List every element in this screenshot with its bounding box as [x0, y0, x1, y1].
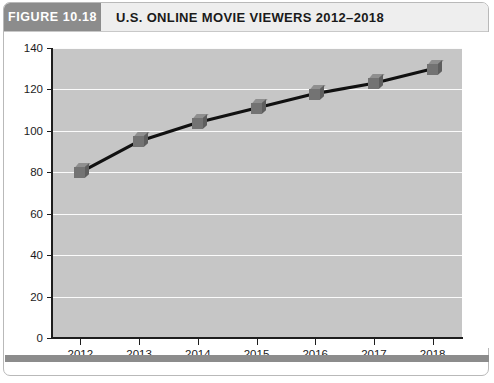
marker-cube-side [379, 75, 383, 89]
x-axis-tick-mark [433, 339, 434, 345]
data-point-marker [309, 85, 324, 100]
data-point-marker [74, 163, 89, 178]
y-axis-tick-label: 80 [1, 166, 43, 178]
marker-cube-face [133, 136, 144, 147]
x-axis-tick-mark [374, 339, 375, 345]
x-axis-tick-mark [139, 339, 140, 345]
y-axis-tick-label: 40 [1, 249, 43, 261]
y-axis-tick-label: 0 [1, 332, 43, 344]
figure-title: U.S. ONLINE MOVIE VIEWERS 2012–2018 [116, 3, 484, 31]
marker-cube-side [438, 60, 442, 74]
data-point-marker [427, 60, 442, 75]
marker-cube-face [427, 64, 438, 75]
y-axis-tick-label: 120 [1, 83, 43, 95]
figure-number-badge: FIGURE 10.18 [4, 3, 101, 31]
marker-cube-face [309, 89, 320, 100]
y-axis-tick-label: 60 [1, 208, 43, 220]
y-axis-tick-label: 100 [1, 125, 43, 137]
marker-cube-face [74, 167, 85, 178]
x-axis-tick-mark [315, 339, 316, 345]
figure-header: FIGURE 10.18 U.S. ONLINE MOVIE VIEWERS 2… [4, 3, 488, 32]
y-axis-line [51, 48, 53, 339]
marker-cube-side [262, 99, 266, 113]
data-point-marker [133, 132, 148, 147]
data-point-marker [368, 74, 383, 89]
y-axis-tick-label: 140 [1, 42, 43, 54]
figure-card: FIGURE 10.18 U.S. ONLINE MOVIE VIEWERS 2… [3, 2, 489, 376]
plot-frame: 020406080100120140 201220132014201520162… [51, 48, 462, 338]
figure-footer-bar [5, 355, 489, 362]
series-line [51, 48, 462, 338]
data-point-marker [251, 99, 266, 114]
marker-cube-face [368, 78, 379, 89]
marker-cube-face [192, 118, 203, 129]
data-point-marker [192, 114, 207, 129]
marker-cube-side [203, 114, 207, 128]
x-axis-tick-mark [80, 339, 81, 345]
marker-cube-side [320, 85, 324, 99]
x-axis-tick-mark [257, 339, 258, 345]
y-axis-tick-label: 20 [1, 291, 43, 303]
x-axis-line [51, 337, 463, 339]
chart-body: 020406080100120140 201220132014201520162… [4, 32, 490, 348]
marker-cube-face [251, 103, 262, 114]
marker-cube-side [144, 133, 148, 147]
marker-cube-side [85, 164, 89, 178]
x-axis-tick-mark [198, 339, 199, 345]
